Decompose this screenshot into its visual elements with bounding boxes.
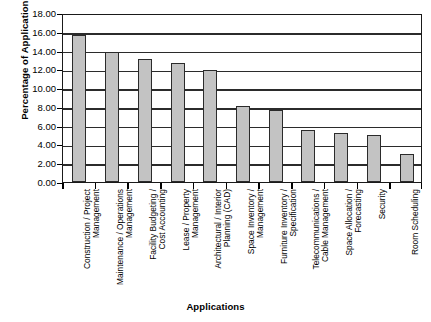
- x-axis-category-labels: Construction / Project ManagementMainten…: [62, 189, 422, 289]
- y-axis-tick-mark: [57, 89, 62, 90]
- y-axis-tick-mark: [57, 108, 62, 109]
- y-axis-tick-mark: [57, 14, 62, 15]
- y-axis-tick-label: 4.00: [18, 141, 56, 151]
- x-axis-category-label: Telecommunications / Cable Management: [312, 189, 331, 289]
- y-axis-tick-mark: [57, 183, 62, 184]
- bar: [171, 63, 185, 182]
- y-axis-tick-mark: [57, 70, 62, 71]
- y-axis-tick-label: 12.00: [18, 66, 56, 76]
- y-axis-tick-labels: 0.002.004.006.008.0010.0012.0014.0016.00…: [18, 14, 56, 183]
- x-axis-category-label: Maintenance / Operations Management: [116, 189, 135, 289]
- bars-layer: [63, 15, 421, 182]
- x-axis-category-label: Security: [378, 189, 387, 289]
- plot-area: [62, 14, 422, 183]
- x-axis-category-label: Facility Budgeting / Cost Accounting: [149, 189, 168, 289]
- x-axis-category-label: Construction / Project Management: [83, 189, 102, 289]
- bar: [203, 70, 217, 182]
- y-axis-tick-label: 2.00: [18, 159, 56, 169]
- bar: [334, 133, 348, 182]
- y-axis-tick-label: 14.00: [18, 47, 56, 57]
- bar: [138, 59, 152, 182]
- y-axis-tick-mark: [57, 52, 62, 53]
- bar: [367, 135, 381, 182]
- bar: [72, 35, 86, 182]
- y-axis-tick-label: 18.00: [18, 9, 56, 19]
- bar: [236, 106, 250, 182]
- bar: [105, 52, 119, 182]
- x-axis-title: Applications: [0, 301, 431, 312]
- x-axis-category-label: Space Inventory / Management: [247, 189, 266, 289]
- y-axis-tick-mark: [57, 164, 62, 165]
- x-axis-category-label: Room Scheduling: [411, 189, 420, 289]
- y-axis-tick-label: 0.00: [18, 178, 56, 188]
- y-axis-tick-mark: [57, 145, 62, 146]
- x-axis-category-label: Lease / Property Management: [182, 189, 201, 289]
- y-axis-tick-mark: [57, 33, 62, 34]
- y-axis-tick-label: 16.00: [18, 28, 56, 38]
- x-axis-category-label: Space Allocation / Forecasting: [345, 189, 364, 289]
- y-axis-tick-label: 8.00: [18, 103, 56, 113]
- bar-chart: Percentage of Applications 0.002.004.006…: [0, 0, 431, 322]
- y-axis-tick-label: 6.00: [18, 122, 56, 132]
- bar: [400, 154, 414, 182]
- bar: [301, 130, 315, 182]
- x-axis-category-label: Furniture Inventory / Specification: [280, 189, 299, 289]
- x-axis-category-label: Architectural / Interior Planning (CAD): [214, 189, 233, 289]
- bar: [269, 110, 283, 182]
- y-axis-tick-label: 10.00: [18, 84, 56, 94]
- y-axis-tick-mark: [57, 127, 62, 128]
